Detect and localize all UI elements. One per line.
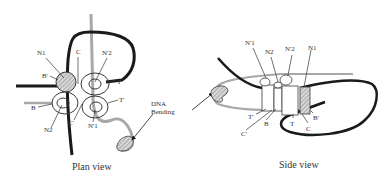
diagram-canvas: N1 C N'2 B' T T' B N2 C' N'1 DNA Bending… <box>0 0 385 180</box>
side-cap-n1p <box>260 78 270 86</box>
side-cap-n2p <box>280 75 292 85</box>
side-label-n1: N1 <box>308 44 317 52</box>
side-label-cp: C' <box>241 130 247 138</box>
side-view-caption: Side view <box>279 159 319 170</box>
plan-label-n1p: N'1 <box>88 122 98 130</box>
side-label-c: C <box>306 125 311 133</box>
plan-label-n2: N2 <box>44 126 53 134</box>
plan-annotation-dna: DNA <box>151 100 166 108</box>
plan-label-n2p: N'2 <box>102 49 112 57</box>
side-label-n1p: N'1 <box>245 39 255 47</box>
plan-label-bp: B' <box>42 72 48 80</box>
side-label-tp: T' <box>248 113 254 121</box>
plan-label-t: T <box>117 78 122 86</box>
side-label-b: B <box>264 120 269 128</box>
plan-ring-top-right <box>81 73 109 95</box>
side-column-t <box>282 86 298 115</box>
plan-label-b: B <box>31 104 36 112</box>
side-dna-bending-blob <box>211 86 228 102</box>
plan-label-n1: N1 <box>37 49 46 57</box>
plan-bprime-disc <box>56 72 76 92</box>
side-column-c-hatched <box>300 87 310 114</box>
side-label-t: T <box>290 120 295 128</box>
side-label-bp: B' <box>313 114 319 122</box>
side-column-tprime <box>262 85 274 111</box>
side-dna-bending-arrow <box>192 93 213 110</box>
plan-view-caption: Plan view <box>72 161 112 172</box>
side-label-n2p: N'2 <box>285 45 295 53</box>
plan-view: N1 C N'2 B' T T' B N2 C' N'1 DNA Bending… <box>16 14 175 172</box>
plan-annotation-bending: Bending <box>151 108 175 116</box>
plan-label-tp: T' <box>119 96 125 104</box>
side-column-b <box>274 88 282 111</box>
plan-label-c: C <box>76 48 81 56</box>
plan-label-cp: C' <box>68 119 74 127</box>
side-view: N'1 N2 N'2 N1 T' B C' T C B' Side view <box>211 39 377 170</box>
side-label-n2: N2 <box>265 48 274 56</box>
plan-ring-bottom-left <box>52 92 78 114</box>
